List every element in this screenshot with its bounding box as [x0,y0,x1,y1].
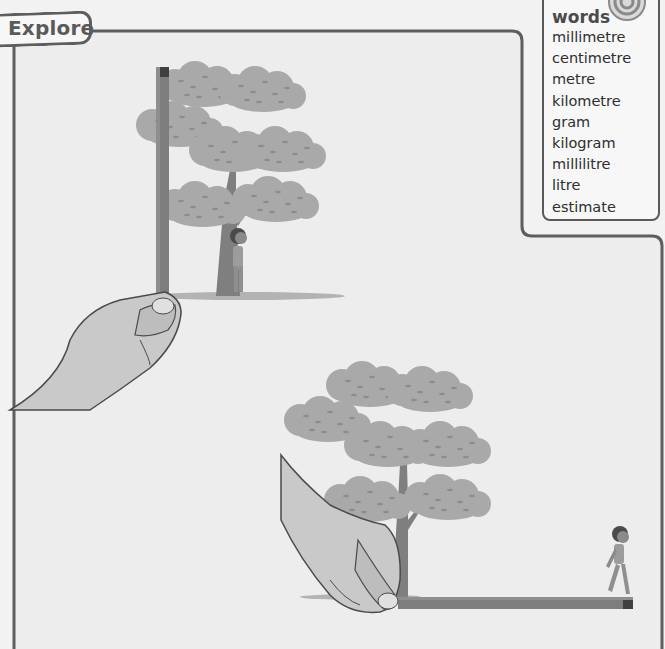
hand-holding-pencil [281,455,400,612]
illustration-horizontal-estimate [281,361,633,612]
explore-page: Explore words millimetre centimetre metr… [0,0,665,649]
illustrations [0,0,665,649]
hand-holding-pencil [10,292,181,410]
pencil-horizontal [398,597,633,609]
illustration-vertical-estimate [10,61,345,410]
child-walking [606,526,630,594]
pencil-vertical [156,67,169,297]
